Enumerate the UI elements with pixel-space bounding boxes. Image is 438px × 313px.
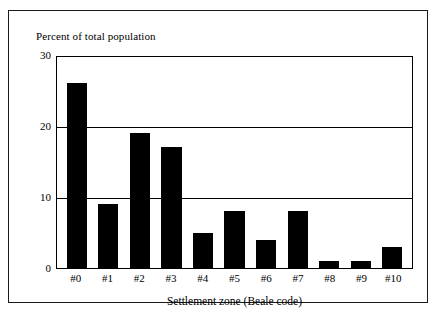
x-tick-label-zone-0: #0 bbox=[60, 272, 92, 284]
bar-zone-6[interactable] bbox=[256, 240, 276, 268]
x-tick-label-zone-8: #8 bbox=[314, 272, 346, 284]
bar-zone-4[interactable] bbox=[193, 233, 213, 269]
x-axis-title: Settlement zone (Beale code) bbox=[56, 295, 413, 307]
chart-figure: Percent of total population 0102030 #0#1… bbox=[0, 0, 438, 313]
x-tick-label-zone-7: #7 bbox=[282, 272, 314, 284]
bar-slot bbox=[187, 57, 219, 268]
y-tick-label-30: 30 bbox=[27, 50, 51, 61]
x-tick-label-zone-4: #4 bbox=[187, 272, 219, 284]
y-axis-tick-labels: 0102030 bbox=[23, 56, 51, 269]
bar-slot bbox=[124, 57, 156, 268]
bar-zone-2[interactable] bbox=[130, 133, 150, 268]
x-tick-label-zone-2: #2 bbox=[123, 272, 155, 284]
plot-area bbox=[56, 56, 413, 269]
bar-slot bbox=[93, 57, 125, 268]
bar-slot bbox=[156, 57, 188, 268]
bar-slot bbox=[345, 57, 377, 268]
y-axis-title: Percent of total population bbox=[36, 30, 156, 42]
x-tick-label-zone-1: #1 bbox=[92, 272, 124, 284]
bar-zone-5[interactable] bbox=[224, 211, 244, 268]
bar-zone-3[interactable] bbox=[161, 147, 181, 268]
bar-slot bbox=[376, 57, 408, 268]
x-tick-label-zone-6: #6 bbox=[250, 272, 282, 284]
bar-slot bbox=[313, 57, 345, 268]
figure-border: Percent of total population 0102030 #0#1… bbox=[8, 10, 428, 303]
x-tick-label-zone-5: #5 bbox=[219, 272, 251, 284]
bar-zone-8[interactable] bbox=[319, 261, 339, 268]
x-tick-label-zone-10: #10 bbox=[377, 272, 409, 284]
y-tick-label-0: 0 bbox=[27, 263, 51, 274]
bar-zone-9[interactable] bbox=[351, 261, 371, 268]
x-tick-label-zone-9: #9 bbox=[346, 272, 378, 284]
bar-zone-10[interactable] bbox=[382, 247, 402, 268]
bar-slot bbox=[61, 57, 93, 268]
y-tick-label-10: 10 bbox=[27, 192, 51, 203]
bar-slot bbox=[282, 57, 314, 268]
bar-zone-1[interactable] bbox=[98, 204, 118, 268]
bar-zone-7[interactable] bbox=[288, 211, 308, 268]
x-axis-tick-labels: #0#1#2#3#4#5#6#7#8#9#10 bbox=[56, 272, 413, 284]
bar-slot bbox=[219, 57, 251, 268]
y-tick-label-20: 20 bbox=[27, 121, 51, 132]
x-tick-label-zone-3: #3 bbox=[155, 272, 187, 284]
bar-zone-0[interactable] bbox=[67, 83, 87, 268]
bar-series bbox=[57, 57, 412, 268]
bar-slot bbox=[250, 57, 282, 268]
